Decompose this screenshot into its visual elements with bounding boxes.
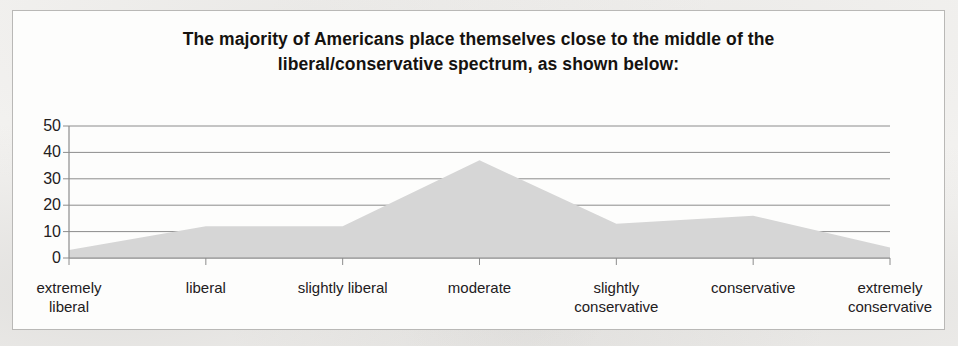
x-axis-label-line: conservative	[678, 278, 828, 297]
y-axis-label-10: 10	[17, 223, 61, 241]
x-axis-label-slightly-liberal: slightly liberal	[268, 278, 418, 297]
x-axis-label-line: conservative	[815, 297, 958, 316]
x-axis-tick-labels: extremelyliberalliberalslightly liberalm…	[13, 269, 946, 325]
y-axis-label-40: 40	[17, 143, 61, 161]
x-axis-label-conservative: conservative	[678, 278, 828, 297]
y-axis-label-20: 20	[17, 196, 61, 214]
x-axis-label-line: slightly liberal	[268, 278, 418, 297]
x-axis-label-line: extremely	[0, 278, 144, 297]
figure-frame: The majority of Americans place themselv…	[12, 10, 945, 330]
y-axis-label-30: 30	[17, 170, 61, 188]
x-axis-label-extremely-liberal: extremelyliberal	[0, 278, 144, 316]
x-axis-label-line: slightly	[541, 278, 691, 297]
x-axis-label-line: liberal	[0, 297, 144, 316]
plot-area: 50403020100 extremelyliberalliberalsligh…	[13, 11, 946, 331]
x-axis-label-moderate: moderate	[405, 278, 555, 297]
y-axis-label-0: 0	[17, 249, 61, 267]
x-axis-label-line: extremely	[815, 278, 958, 297]
x-axis-label-extremely-conservative: extremelyconservative	[815, 278, 958, 316]
x-axis-label-line: moderate	[405, 278, 555, 297]
y-axis-label-50: 50	[17, 117, 61, 135]
x-axis-label-liberal: liberal	[131, 278, 281, 297]
area-series-extremely-liberal-to-extremely-conservative	[69, 160, 890, 258]
x-axis-label-line: conservative	[541, 297, 691, 316]
x-axis-label-line: liberal	[131, 278, 281, 297]
x-axis-label-slightly-conservative: slightlyconservative	[541, 278, 691, 316]
